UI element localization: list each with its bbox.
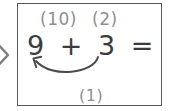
carry-arrow-icon	[28, 55, 106, 81]
worksheet-screenshot: (10) (2) (1) 9 + 3 = 12	[0, 0, 170, 111]
annotation-right-note: (2)	[92, 11, 118, 28]
sum-value: 12	[169, 30, 170, 62]
annotation-left-note: (10)	[40, 11, 77, 28]
equals-operator: =	[131, 30, 155, 62]
chevron-right-icon	[0, 38, 14, 72]
annotation-bottom-note: (1)	[79, 88, 103, 104]
